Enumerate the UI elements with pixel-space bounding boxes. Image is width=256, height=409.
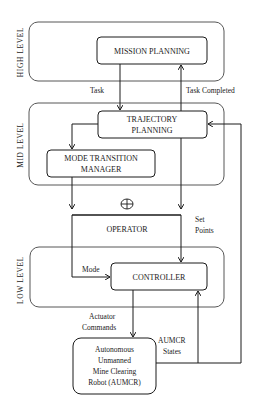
mode-transition-line2: MANAGER bbox=[81, 165, 122, 174]
set-points-label-2: Points bbox=[195, 226, 214, 235]
actuator-label-2: Commands bbox=[82, 323, 116, 332]
set-points-label-1: Set bbox=[195, 215, 206, 224]
aumcr-line1: Autonomous bbox=[95, 345, 134, 354]
task-completed-label: Task Completed bbox=[186, 86, 235, 95]
high-level-label: HIGH LEVEL bbox=[16, 27, 25, 77]
trajectory-planning-line1: TRAJECTORY bbox=[127, 115, 178, 124]
mission-planning-label: MISSION PLANNING bbox=[114, 47, 190, 56]
task-label: Task bbox=[90, 86, 104, 95]
aumcr-line3: Mine Clearing bbox=[93, 367, 137, 376]
trajectory-to-mode-arrow bbox=[72, 124, 98, 149]
architecture-diagram: HIGH LEVEL MID LEVEL LOW LEVEL MISSION P… bbox=[0, 0, 256, 409]
operator-label: OPERATOR bbox=[106, 225, 148, 234]
operator-sum-icon bbox=[121, 199, 133, 209]
states-label-2: States bbox=[163, 347, 181, 356]
mid-level-label: MID LEVEL bbox=[16, 122, 25, 168]
low-level-label: LOW LEVEL bbox=[16, 256, 25, 304]
aumcr-line2: Unmanned bbox=[98, 356, 131, 365]
actuator-label-1: Actuator bbox=[89, 312, 116, 321]
aumcr-line4: Robot (AUMCR) bbox=[88, 378, 141, 387]
states-label-1: AUMCR bbox=[158, 336, 186, 345]
mode-transition-line1: MODE TRANSITION bbox=[64, 154, 138, 163]
trajectory-planning-line2: PLANNING bbox=[132, 126, 173, 135]
controller-label: CONTROLLER bbox=[133, 273, 187, 282]
mode-label: Mode bbox=[82, 265, 100, 274]
trajectory-feedback-arrow bbox=[198, 124, 241, 363]
